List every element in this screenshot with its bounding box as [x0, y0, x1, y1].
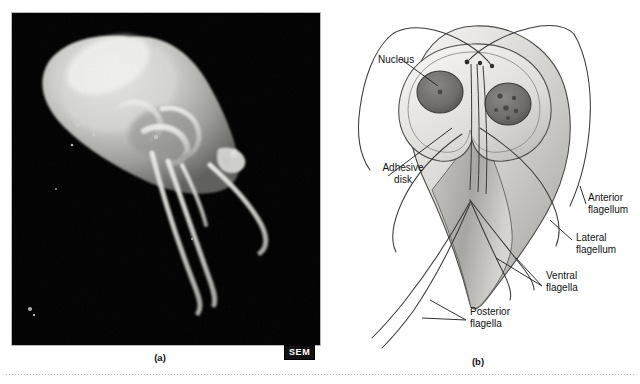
label-anterior-flagellum: Anterior flagellum [588, 192, 628, 215]
label-lateral-flagellum-line1: Lateral [576, 232, 616, 244]
label-anterior-flagellum-line1: Anterior [588, 192, 628, 204]
label-anterior-flagellum-line2: flagellum [588, 204, 628, 216]
leader-posterior-1 [430, 300, 466, 320]
sem-micrograph-image [12, 13, 320, 345]
panel-b-caption: (b) [472, 356, 484, 367]
label-posterior-flagella-line2: flagella [470, 318, 510, 330]
leader-ventral-1 [516, 258, 542, 286]
panel-a-micrograph [12, 13, 320, 345]
bottom-dotted-rule [6, 374, 634, 375]
leader-lateral [550, 220, 572, 240]
label-adhesive-disk-line2: disk [375, 174, 431, 186]
label-adhesive-disk-line1: Adhesive [375, 162, 431, 174]
label-ventral-flagella: Ventral flagella [546, 270, 578, 293]
leader-posterior-2 [422, 318, 466, 320]
figure-root: SEM (a) [0, 0, 640, 384]
label-ventral-flagella-line2: flagella [546, 282, 578, 294]
label-adhesive-disk: Adhesive disk [375, 162, 431, 185]
label-lateral-flagellum: Lateral flagellum [576, 232, 616, 255]
sem-badge: SEM [284, 345, 315, 360]
label-ventral-flagella-line1: Ventral [546, 270, 578, 282]
label-nucleus: Nucleus [378, 54, 414, 66]
label-posterior-flagella: Posterior flagella [470, 306, 510, 329]
label-lateral-flagellum-line2: flagellum [576, 244, 616, 256]
label-posterior-flagella-line1: Posterior [470, 306, 510, 318]
leader-anterior [580, 186, 586, 204]
panel-a-caption: (a) [154, 352, 166, 363]
